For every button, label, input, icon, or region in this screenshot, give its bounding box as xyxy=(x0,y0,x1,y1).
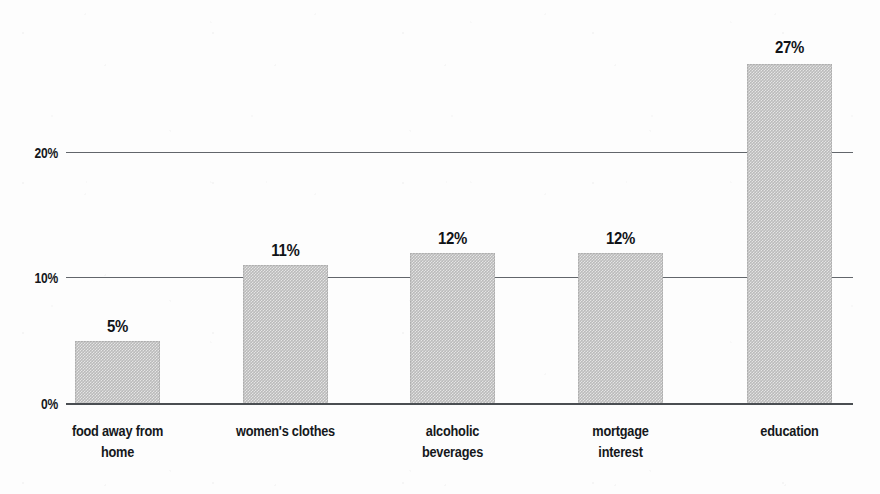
bar-alcoholic-beverages: 12% xyxy=(410,253,495,404)
bar-education: 27% xyxy=(747,64,832,404)
bar-category-label: alcoholic beverages xyxy=(383,421,521,463)
bar-value-label: 12% xyxy=(396,229,510,249)
bar-group-education: 27% education xyxy=(747,0,832,494)
plot-area: 5% food away from home 11% women's cloth… xyxy=(0,0,880,494)
bar-category-label: women's clothes xyxy=(216,421,354,442)
bar-value-label: 11% xyxy=(229,241,343,261)
bar-category-label: food away from home xyxy=(48,421,186,463)
bar-food-away-from-home: 5% xyxy=(75,341,160,404)
axis-baseline-0-percent xyxy=(66,403,853,405)
bar-group-mortgage-interest: 12% mortgage interest xyxy=(578,0,663,494)
y-axis-tick-0-percent: 0% xyxy=(12,396,58,412)
bar-value-label: 5% xyxy=(61,317,175,337)
bar-mortgage-interest: 12% xyxy=(578,253,663,404)
bar-chart: 20% 10% 0% 5% food away from home 11% wo… xyxy=(0,0,880,494)
bar-value-label: 12% xyxy=(564,229,678,249)
bar-value-label: 27% xyxy=(733,38,847,58)
bar-group-alcoholic-beverages: 12% alcoholic beverages xyxy=(410,0,495,494)
bar-womens-clothes: 11% xyxy=(243,265,328,404)
bar-category-label: mortgage interest xyxy=(551,421,689,463)
y-axis-tick-10-percent: 10% xyxy=(12,270,58,286)
y-axis-tick-20-percent: 20% xyxy=(12,145,58,161)
bar-group-food-away-from-home: 5% food away from home xyxy=(75,0,160,494)
bar-category-label: education xyxy=(720,421,858,442)
bar-group-womens-clothes: 11% women's clothes xyxy=(243,0,328,494)
